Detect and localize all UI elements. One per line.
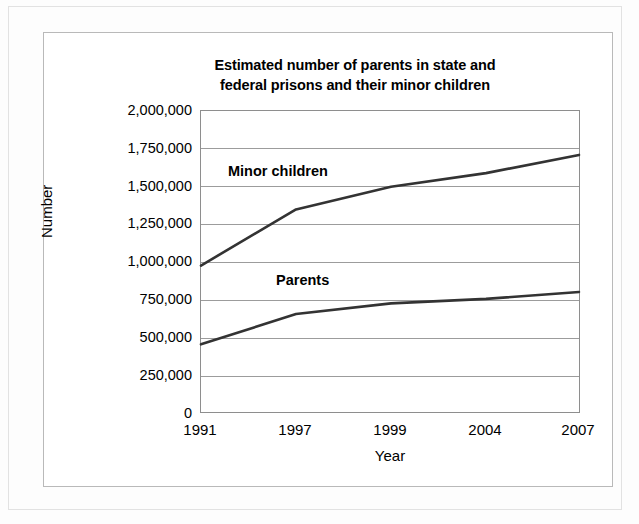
series-lines xyxy=(201,111,581,414)
y-tick-label: 1,250,000 xyxy=(82,216,192,231)
plot-area xyxy=(200,110,580,413)
y-tick-label: 2,000,000 xyxy=(82,103,192,118)
series-label-minor-children: Minor children xyxy=(228,163,328,179)
line-parents xyxy=(201,292,579,344)
y-tick-label: 1,750,000 xyxy=(82,141,192,156)
y-tick-label: 750,000 xyxy=(82,292,192,307)
chart-screenshot: Estimated number of parents in state and… xyxy=(0,0,639,524)
x-tick-label: 2007 xyxy=(533,421,623,438)
y-tick-label: 1,500,000 xyxy=(82,179,192,194)
x-tick-label: 1991 xyxy=(155,421,245,438)
y-axis-tick-labels: 2,000,000 1,750,000 1,500,000 1,250,000 … xyxy=(82,0,192,524)
y-tick-label: 500,000 xyxy=(82,330,192,345)
y-tick-label: 1,000,000 xyxy=(82,254,192,269)
y-tick-label: 250,000 xyxy=(82,368,192,383)
x-tick-label: 1999 xyxy=(345,421,435,438)
y-axis-title: Number xyxy=(38,185,55,238)
series-label-parents: Parents xyxy=(276,272,329,288)
y-tick-label: 0 xyxy=(82,406,192,421)
x-tick-label: 2004 xyxy=(440,421,530,438)
x-axis-title: Year xyxy=(200,447,580,464)
x-tick-label: 1997 xyxy=(250,421,340,438)
